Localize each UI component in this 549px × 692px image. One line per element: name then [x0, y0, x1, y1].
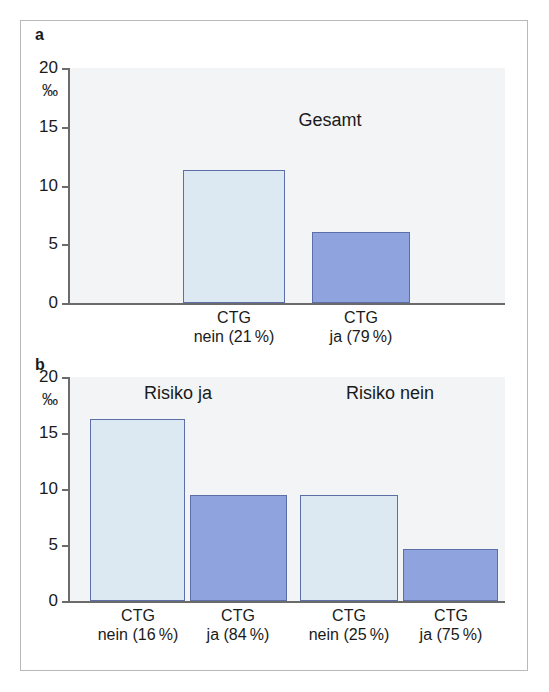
bar-b-risiko-nein-ctg-nein — [300, 495, 398, 601]
x-axis-a — [68, 303, 505, 305]
chart-panel-a: a 20 ‰ 15 10 5 0 Gesamt CTG nein (21 %) … — [0, 0, 549, 350]
y-tick-b-0 — [62, 601, 69, 603]
x-axis-b — [68, 601, 505, 603]
y-tick-a-20 — [62, 68, 69, 70]
bar-b-risiko-nein-ctg-ja — [403, 549, 498, 601]
y-tick-a-5 — [62, 244, 69, 246]
y-tick-label-a-10: 10 — [24, 176, 58, 196]
y-tick-label-a-20: 20 — [24, 58, 58, 78]
x-axis-label-a-0: CTG nein (21 %) — [164, 308, 304, 346]
chart-group-title-b-risiko-ja: Risiko ja — [88, 383, 268, 404]
bar-a-ctg-ja — [312, 232, 410, 303]
x-axis-label-a-1-line1: CTG — [291, 308, 431, 327]
y-axis-unit-b: ‰ — [24, 391, 58, 409]
y-tick-label-b-20: 20 — [24, 367, 58, 387]
chart-panel-b: b 20 ‰ 15 10 5 0 Risiko ja Risiko nein C… — [0, 350, 549, 692]
x-axis-label-b-3-line1: CTG — [390, 606, 512, 625]
bar-b-risiko-ja-ctg-nein — [90, 419, 185, 601]
y-tick-a-10 — [62, 186, 69, 188]
x-axis-label-a-0-line1: CTG — [164, 308, 304, 327]
y-tick-label-b-5: 5 — [24, 535, 58, 555]
x-axis-label-a-0-line2: nein (21 %) — [164, 327, 304, 346]
y-tick-label-a-5: 5 — [24, 234, 58, 254]
y-tick-label-a-15: 15 — [24, 117, 58, 137]
x-axis-label-a-1: CTG ja (79 %) — [291, 308, 431, 346]
panel-label-a: a — [35, 26, 44, 44]
bar-a-ctg-nein — [183, 170, 285, 303]
y-axis-unit-a: ‰ — [24, 82, 58, 100]
x-axis-label-a-1-line2: ja (79 %) — [291, 327, 431, 346]
y-tick-label-b-10: 10 — [24, 479, 58, 499]
y-tick-b-15 — [62, 433, 69, 435]
bar-b-risiko-ja-ctg-ja — [190, 495, 287, 601]
y-tick-b-20 — [62, 377, 69, 379]
y-tick-label-b-15: 15 — [24, 423, 58, 443]
x-axis-label-b-3: CTG ja (75 %) — [390, 606, 512, 644]
y-tick-b-10 — [62, 489, 69, 491]
figure-container: a 20 ‰ 15 10 5 0 Gesamt CTG nein (21 %) … — [0, 0, 549, 692]
y-tick-a-15 — [62, 127, 69, 129]
chart-title-a: Gesamt — [230, 110, 430, 131]
y-tick-a-0 — [62, 303, 69, 305]
y-tick-label-b-0: 0 — [24, 591, 58, 611]
chart-group-title-b-risiko-nein: Risiko nein — [300, 383, 480, 404]
plot-area-a — [70, 68, 505, 303]
y-tick-label-a-0: 0 — [24, 293, 58, 313]
y-tick-b-5 — [62, 545, 69, 547]
x-axis-label-b-3-line2: ja (75 %) — [390, 625, 512, 644]
